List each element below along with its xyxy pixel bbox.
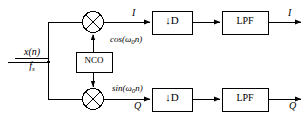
block-diagram: x(n) fs NCO cos(ω0n) sin(ω0n) I Q ↓D ↓D … [0, 0, 308, 127]
sine-carrier-label: sin(ω0n) [112, 84, 143, 95]
output-label-q: Q [289, 101, 296, 111]
mixer-output-label-q: Q [134, 101, 141, 111]
input-sample-rate: fs [12, 60, 52, 75]
input-fraction-bar [15, 58, 49, 59]
decimator-label-top: ↓D [152, 15, 192, 26]
output-label-i: I [288, 8, 291, 18]
lpf-label-bottom: LPF [222, 93, 268, 103]
decimator-label-bottom: ↓D [152, 92, 192, 103]
input-signal-name: x(n) [12, 46, 52, 57]
cosine-carrier-label: cos(ω0n) [110, 35, 142, 46]
nco-label: NCO [78, 56, 110, 65]
mixer-output-label-i: I [132, 8, 135, 18]
lpf-label-top: LPF [222, 16, 268, 26]
input-signal-label: x(n) fs [12, 46, 52, 75]
